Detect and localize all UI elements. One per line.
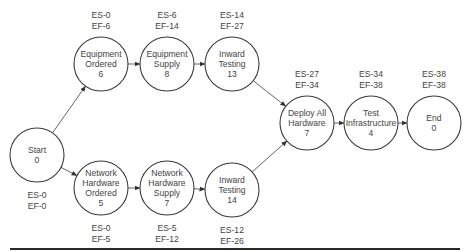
network-diagram: Start0ES-0EF-0EquipmentOrdered6ES-0EF-6E… — [0, 0, 468, 252]
early-finish-label: EF-0 — [28, 201, 47, 211]
node-deploy-all-hardware: Deploy AllHardware7ES-27EF-34 — [280, 69, 334, 150]
node-title-line: Start — [28, 145, 47, 155]
early-start-label: ES-6 — [157, 10, 176, 20]
node-title-line: Ordered — [85, 188, 117, 198]
node-title-line: Network — [151, 168, 183, 178]
early-finish-label: EF-38 — [359, 80, 383, 90]
node-title-line: Infrastructure — [346, 118, 397, 128]
nodes-layer: Start0ES-0EF-0EquipmentOrdered6ES-0EF-6E… — [10, 10, 461, 246]
early-finish-label: EF-34 — [295, 80, 319, 90]
early-start-label: ES-5 — [157, 223, 176, 233]
node-duration: 0 — [35, 155, 40, 165]
edge-arrow — [253, 81, 285, 106]
node-duration: 6 — [99, 69, 104, 79]
edge-arrow — [61, 167, 77, 175]
node-inward-testing-14: InwardTesting14ES-12EF-26 — [205, 163, 259, 246]
node-title-line: Equipment — [80, 49, 122, 59]
node-duration: 7 — [305, 128, 310, 138]
node-title-line: Inward — [219, 49, 245, 59]
node-duration: 13 — [227, 69, 237, 79]
node-duration: 14 — [227, 195, 237, 205]
node-title-line: Network — [85, 168, 117, 178]
early-start-label: ES-12 — [220, 225, 244, 235]
node-network-hardware-ordered: NetworkHardwareOrdered5ES-0EF-5 — [74, 161, 128, 244]
node-duration: 0 — [432, 123, 437, 133]
node-duration: 8 — [165, 69, 170, 79]
node-title-line: Hardware — [288, 118, 325, 128]
early-start-label: ES-0 — [27, 190, 46, 200]
early-finish-label: EF-5 — [92, 234, 111, 244]
early-finish-label: EF-12 — [155, 234, 179, 244]
edge-arrow — [252, 141, 286, 172]
early-start-label: ES-0 — [91, 223, 110, 233]
node-title-line: Deploy All — [288, 108, 326, 118]
node-test-infrastructure: TestInfrastructure4ES-34EF-38 — [344, 69, 398, 150]
node-start: Start0ES-0EF-0 — [10, 128, 64, 211]
node-title-line: Testing — [218, 59, 245, 69]
node-duration: 4 — [369, 128, 374, 138]
early-finish-label: EF-27 — [220, 21, 244, 31]
node-network-hardware-supply: NetworkHardwareSupply7ES-5EF-12 — [140, 161, 194, 244]
node-inward-testing-13: InwardTesting13ES-14EF-27 — [205, 10, 259, 91]
node-title-line: Testing — [218, 185, 245, 195]
node-title-line: Ordered — [85, 59, 117, 69]
node-end: End0ES-38EF-38 — [407, 69, 461, 150]
early-finish-label: EF-26 — [220, 236, 244, 246]
node-equipment-ordered: EquipmentOrdered6ES-0EF-6 — [74, 10, 128, 91]
early-start-label: ES-0 — [91, 10, 110, 20]
node-duration: 5 — [99, 198, 104, 208]
early-finish-label: EF-6 — [92, 21, 111, 31]
node-title-line: End — [426, 113, 442, 123]
early-start-label: ES-27 — [295, 69, 319, 79]
node-title-line: Equipment — [146, 49, 188, 59]
early-start-label: ES-34 — [359, 69, 383, 79]
node-title-line: Hardware — [148, 178, 185, 188]
early-start-label: ES-38 — [422, 69, 446, 79]
edge-arrow — [53, 87, 86, 133]
node-title-line: Inward — [219, 175, 245, 185]
node-title-line: Supply — [154, 59, 181, 69]
early-finish-label: EF-14 — [155, 21, 179, 31]
node-title-line: Supply — [154, 188, 181, 198]
node-equipment-supply: EquipmentSupply8ES-6EF-14 — [140, 10, 194, 91]
node-duration: 7 — [165, 198, 170, 208]
node-title-line: Hardware — [82, 178, 119, 188]
node-title-line: Test — [363, 108, 379, 118]
early-finish-label: EF-38 — [422, 80, 446, 90]
early-start-label: ES-14 — [220, 10, 244, 20]
